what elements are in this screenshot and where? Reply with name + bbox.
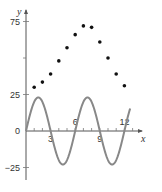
data-point bbox=[32, 85, 36, 89]
y-tick-label: 75 bbox=[10, 17, 20, 27]
chart: yx3691275250−25 bbox=[0, 0, 162, 192]
data-point bbox=[114, 72, 118, 76]
y-tick-label: −25 bbox=[5, 163, 20, 173]
data-point bbox=[73, 33, 77, 37]
y-axis-arrow-icon bbox=[24, 9, 28, 14]
data-point bbox=[49, 72, 53, 76]
data-point bbox=[82, 24, 86, 28]
data-point bbox=[57, 59, 61, 63]
y-axis-label: y bbox=[16, 6, 22, 17]
data-point bbox=[98, 40, 102, 44]
data-point bbox=[106, 56, 110, 60]
data-point bbox=[65, 46, 69, 50]
data-point bbox=[123, 84, 127, 88]
data-point bbox=[41, 80, 45, 84]
y-tick-label: 0 bbox=[15, 126, 20, 136]
y-tick-label: 25 bbox=[10, 90, 20, 100]
x-axis-label: x bbox=[140, 133, 146, 144]
data-point bbox=[90, 26, 94, 30]
